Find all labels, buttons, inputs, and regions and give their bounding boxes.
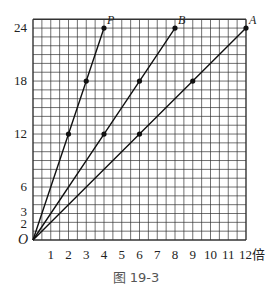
chart-grid bbox=[33, 19, 246, 240]
x-tick-label: 10 bbox=[204, 247, 217, 262]
x-tick-label: 2 bbox=[65, 247, 72, 262]
x-tick-label: 11 bbox=[222, 247, 235, 262]
origin-label: O bbox=[18, 232, 28, 247]
series-label-p: P bbox=[106, 13, 115, 27]
x-tick-label: 3 bbox=[83, 247, 90, 262]
series-label-b: B bbox=[178, 13, 186, 27]
figure-caption: 图 19-3 bbox=[113, 270, 160, 285]
x-tick-label: 5 bbox=[119, 247, 126, 262]
chart-lines: PBA bbox=[33, 13, 257, 240]
y-tick-label: 24 bbox=[14, 20, 28, 35]
data-point bbox=[101, 131, 106, 136]
data-point bbox=[84, 78, 89, 83]
data-point bbox=[101, 25, 106, 30]
data-point bbox=[243, 25, 248, 30]
x-tick-label: 4 bbox=[101, 247, 108, 262]
y-tick-label: 2 bbox=[21, 216, 28, 231]
data-point bbox=[137, 78, 142, 83]
data-point bbox=[66, 131, 71, 136]
x-tick-label: 9 bbox=[190, 247, 197, 262]
y-tick-label: 18 bbox=[14, 73, 27, 88]
data-point bbox=[172, 25, 177, 30]
line-chart: PBA 123456789101112倍236121824O 图 19-3 bbox=[0, 0, 272, 294]
y-tick-label: 3 bbox=[21, 204, 28, 219]
x-tick-label: 6 bbox=[136, 247, 143, 262]
x-tick-label: 1 bbox=[48, 247, 55, 262]
data-point bbox=[190, 78, 195, 83]
y-tick-label: 6 bbox=[21, 179, 28, 194]
series-label-a: A bbox=[248, 13, 257, 27]
x-tick-label: 12倍 bbox=[239, 247, 265, 262]
data-point bbox=[137, 131, 142, 136]
x-tick-label: 8 bbox=[172, 247, 179, 262]
x-tick-label: 7 bbox=[154, 247, 161, 262]
y-tick-label: 12 bbox=[14, 126, 27, 141]
